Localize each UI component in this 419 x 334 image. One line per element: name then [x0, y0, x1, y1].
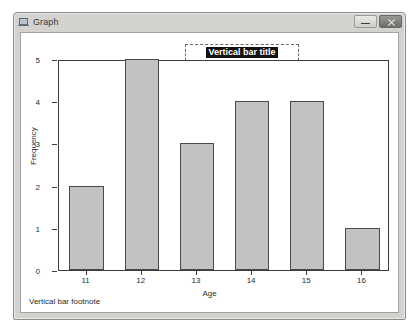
bar-chart[interactable]: Vertical bar title Frequency 01234511121… [21, 33, 398, 312]
x-tick-label: 14 [239, 276, 263, 285]
bar-14[interactable] [235, 101, 269, 270]
x-tick-mark [306, 271, 307, 275]
graph-window: Graph Vertical bar title Frequency 01234… [13, 12, 406, 320]
y-tick-mark [52, 60, 57, 61]
y-tick-mark [52, 229, 57, 230]
y-tick-label: 5 [20, 56, 40, 65]
minimize-icon [361, 23, 370, 24]
close-button[interactable] [379, 15, 402, 28]
y-tick-label: 1 [20, 225, 40, 234]
bar-16[interactable] [345, 228, 379, 270]
y-tick-label: 0 [20, 267, 40, 276]
y-tick-label: 4 [20, 98, 40, 107]
bars-container [59, 61, 388, 270]
minimize-button[interactable] [354, 15, 377, 28]
bar-13[interactable] [180, 143, 214, 270]
y-tick-label: 3 [20, 140, 40, 149]
bar-15[interactable] [290, 101, 324, 270]
x-tick-mark [86, 271, 87, 275]
window-controls [354, 15, 403, 28]
bar-12[interactable] [125, 59, 159, 270]
window-title: Graph [33, 17, 59, 27]
graph-client-area: Vertical bar title Frequency 01234511121… [20, 32, 399, 313]
x-tick-mark [361, 271, 362, 275]
plot-area [58, 60, 389, 271]
x-tick-label: 16 [349, 276, 373, 285]
y-tick-mark [52, 144, 57, 145]
x-tick-label: 15 [294, 276, 318, 285]
bar-11[interactable] [69, 186, 103, 270]
x-tick-mark [251, 271, 252, 275]
y-tick-mark [52, 102, 57, 103]
y-tick-mark [52, 187, 57, 188]
x-tick-label: 12 [129, 276, 153, 285]
chart-title-selection-box[interactable]: Vertical bar title [185, 44, 299, 61]
chart-footnote: Vertical bar footnote [29, 297, 100, 306]
y-tick-mark [52, 271, 57, 272]
y-tick-label: 2 [20, 183, 40, 192]
x-tick-label: 11 [74, 276, 98, 285]
x-tick-mark [196, 271, 197, 275]
x-tick-label: 13 [184, 276, 208, 285]
graph-window-icon [18, 16, 29, 27]
x-tick-mark [141, 271, 142, 275]
chart-title[interactable]: Vertical bar title [206, 47, 277, 58]
window-title-bar[interactable]: Graph [14, 13, 405, 30]
